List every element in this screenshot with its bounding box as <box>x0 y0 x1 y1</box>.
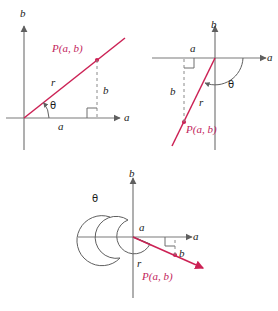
spiral-start-segment <box>133 237 151 245</box>
right-angle-marker <box>184 58 194 68</box>
panel-reflex-radius-label: r <box>199 97 203 108</box>
angle-arc <box>44 103 50 118</box>
panel-spiral-radius-label: r <box>137 258 141 269</box>
panel-acute-vertical-axis-label: b <box>20 8 26 19</box>
panel-reflex-horizontal-leg-label: a <box>190 43 196 54</box>
angle-arc <box>205 58 243 85</box>
panel-spiral-vertical-axis-label: b <box>129 168 135 179</box>
panel-acute-radius-label: r <box>51 77 55 88</box>
panel-acute-angle-label: θ <box>50 101 56 111</box>
panel-reflex-vertical-leg-label: b <box>170 86 176 97</box>
right-angle-marker <box>87 108 97 118</box>
panel-spiral-horizontal-leg-label: a <box>139 222 145 233</box>
panel-acute-horizontal-leg-label: a <box>58 121 64 132</box>
panel-reflex-vertical-axis-label: b <box>211 19 217 30</box>
panel-acute-point-label: P(a, b) <box>52 43 83 54</box>
panel-spiral-horizontal-axis-label: a <box>193 231 199 242</box>
panel-acute-horizontal-axis-label: a <box>124 112 130 123</box>
panel-reflex-angle-label: θ <box>228 80 234 90</box>
panel-spiral-point-label: P(a, b) <box>142 271 173 282</box>
panel-spiral-angle-label: θ <box>92 194 98 204</box>
right-angle-marker <box>165 237 175 246</box>
panel-reflex-horizontal-axis-label: a <box>267 52 273 63</box>
polar-coordinate-figure: b a P(a, b) r θ a b b a P(a, b) r θ a b … <box>0 0 278 311</box>
panel-reflex-point-label: P(a, b) <box>186 124 217 135</box>
panel-spiral-vertical-leg-label: b <box>179 248 185 259</box>
panel-acute-vertical-leg-label: b <box>103 85 109 96</box>
